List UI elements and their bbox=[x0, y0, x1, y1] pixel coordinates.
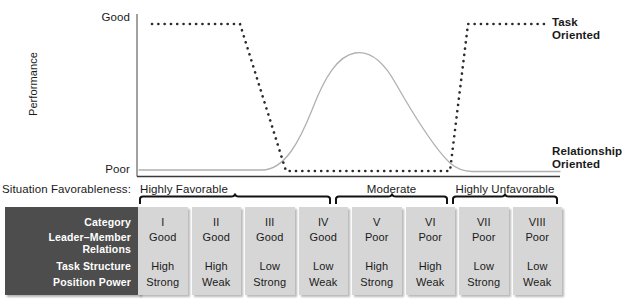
matrix-cell-lmr-2: Good bbox=[192, 231, 242, 243]
situation-favorableness-label: Situation Favorableness: bbox=[2, 183, 131, 195]
matrix-cell-lmr-8: Poor bbox=[513, 231, 563, 243]
row-label-position-power: Position Power bbox=[53, 276, 131, 288]
favorableness-group-highly-unfavorable: Highly Unfavorable bbox=[453, 183, 557, 195]
legend-task-oriented-line2: Oriented bbox=[552, 29, 600, 42]
matrix-column-7: VII Poor Low Strong bbox=[459, 207, 509, 295]
matrix-cell-task-structure-6: High bbox=[406, 260, 456, 272]
matrix-cell-category-6: VI bbox=[406, 216, 456, 228]
matrix-cell-category-5: V bbox=[352, 216, 402, 228]
matrix-cell-position-power-3: Strong bbox=[245, 276, 295, 288]
relationship-oriented-curve bbox=[139, 53, 560, 172]
matrix-cell-category-4: IV bbox=[299, 216, 349, 228]
matrix-cell-category-2: II bbox=[192, 216, 242, 228]
matrix-row-label-panel: Category Leader–Member Relations Task St… bbox=[5, 207, 140, 295]
matrix-cell-lmr-4: Good bbox=[299, 231, 349, 243]
matrix-cell-task-structure-8: Low bbox=[513, 260, 563, 272]
matrix-column-5: V Poor High Strong bbox=[352, 207, 402, 295]
bracket-moderate bbox=[336, 194, 447, 205]
matrix-column-1: I Good High Strong bbox=[138, 207, 188, 295]
matrix-cell-lmr-6: Poor bbox=[406, 231, 456, 243]
matrix-column-8: VIII Poor Low Weak bbox=[513, 207, 563, 295]
legend-relationship-oriented: Relationship Oriented bbox=[552, 145, 622, 170]
matrix-column-4: IV Good Low Weak bbox=[299, 207, 349, 295]
matrix-cell-task-structure-3: Low bbox=[245, 260, 295, 272]
y-axis-tick-poor: Poor bbox=[50, 163, 130, 175]
matrix-cell-category-8: VIII bbox=[513, 216, 563, 228]
matrix-cell-category-7: VII bbox=[459, 216, 509, 228]
matrix-cell-position-power-5: Strong bbox=[352, 276, 402, 288]
matrix-cell-task-structure-5: High bbox=[352, 260, 402, 272]
row-label-task-structure: Task Structure bbox=[56, 260, 131, 272]
matrix-cell-lmr-3: Good bbox=[245, 231, 295, 243]
matrix-cell-lmr-1: Good bbox=[138, 231, 188, 243]
favorableness-group-highly-favorable: Highly Favorable bbox=[140, 183, 330, 195]
favorableness-group-moderate: Moderate bbox=[336, 183, 447, 195]
matrix-cell-task-structure-7: Low bbox=[459, 260, 509, 272]
matrix-cell-category-3: III bbox=[245, 216, 295, 228]
bracket-highly-favorable bbox=[140, 194, 330, 205]
row-label-leader-member-relations-line2: Relations bbox=[49, 244, 131, 256]
y-axis-title: Performance bbox=[27, 29, 39, 139]
matrix-cell-position-power-2: Weak bbox=[192, 276, 242, 288]
matrix-column-2: II Good High Weak bbox=[192, 207, 242, 295]
contingency-matrix: Category Leader–Member Relations Task St… bbox=[5, 207, 617, 297]
matrix-cell-position-power-7: Strong bbox=[459, 276, 509, 288]
matrix-cell-category-1: I bbox=[138, 216, 188, 228]
matrix-cell-position-power-6: Weak bbox=[406, 276, 456, 288]
bracket-highly-unfavorable bbox=[453, 194, 557, 205]
row-label-leader-member-relations-line1: Leader–Member bbox=[49, 232, 131, 244]
matrix-cell-task-structure-1: High bbox=[138, 260, 188, 272]
matrix-cell-lmr-5: Poor bbox=[352, 231, 402, 243]
legend-task-oriented: Task Oriented bbox=[552, 16, 600, 41]
matrix-cell-task-structure-2: High bbox=[192, 260, 242, 272]
legend-task-oriented-line1: Task bbox=[552, 16, 600, 29]
matrix-cell-position-power-8: Weak bbox=[513, 276, 563, 288]
matrix-cell-position-power-4: Weak bbox=[299, 276, 349, 288]
matrix-cell-task-structure-4: Low bbox=[299, 260, 349, 272]
row-label-category: Category bbox=[84, 216, 131, 228]
matrix-cell-position-power-1: Strong bbox=[138, 276, 188, 288]
task-oriented-curve bbox=[152, 24, 546, 171]
row-label-leader-member-relations: Leader–Member Relations bbox=[49, 232, 131, 255]
matrix-cell-lmr-7: Poor bbox=[459, 231, 509, 243]
matrix-column-3: III Good Low Strong bbox=[245, 207, 295, 295]
legend-relationship-oriented-line2: Oriented bbox=[552, 158, 622, 171]
legend-relationship-oriented-line1: Relationship bbox=[552, 145, 622, 158]
y-axis-tick-good: Good bbox=[50, 11, 130, 23]
matrix-column-6: VI Poor High Weak bbox=[406, 207, 456, 295]
